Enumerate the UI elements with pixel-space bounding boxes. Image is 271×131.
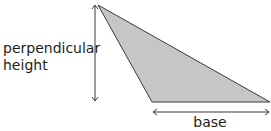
height-label-line1: perpendicular bbox=[3, 40, 100, 56]
triangle-shape bbox=[98, 5, 270, 102]
height-label-line2: height bbox=[3, 57, 48, 73]
triangle-diagram: perpendicular height base bbox=[0, 0, 271, 131]
base-label: base bbox=[193, 114, 226, 130]
